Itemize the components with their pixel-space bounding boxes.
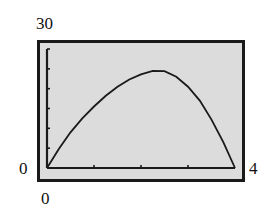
screen-background bbox=[39, 42, 244, 181]
x-min-label: 0 bbox=[41, 190, 50, 207]
y-max-label: 30 bbox=[36, 15, 53, 32]
x-max-label: 4 bbox=[249, 160, 258, 177]
calculator-screen bbox=[37, 40, 245, 182]
y-min-label: 0 bbox=[19, 160, 28, 177]
